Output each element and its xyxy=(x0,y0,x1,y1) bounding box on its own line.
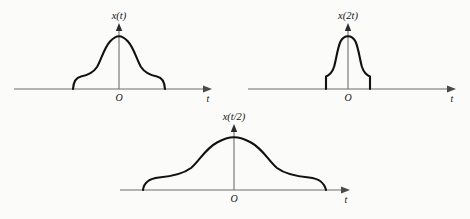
t-axis-arrowhead-xt2 xyxy=(341,187,350,194)
origin-label-x2t: O xyxy=(344,92,351,103)
y-axis-arrowhead-x2t xyxy=(345,23,351,31)
t-axis-label-xt2: t xyxy=(345,194,348,205)
y-axis-arrowhead-xt2 xyxy=(231,124,237,132)
panel-xt: x(t) O t xyxy=(14,10,212,104)
origin-label-xt: O xyxy=(115,92,122,103)
panel-xt2: x(t/2) O t xyxy=(120,111,350,205)
function-label-xt: x(t) xyxy=(111,10,127,22)
function-label-xt2: x(t/2) xyxy=(222,111,246,123)
signal-scaling-figure: x(t) O t x(2t) O t x(t/2) O t xyxy=(0,0,470,219)
t-axis-label-xt: t xyxy=(207,93,210,104)
origin-label-xt2: O xyxy=(230,193,237,204)
function-label-x2t: x(2t) xyxy=(337,10,358,22)
t-axis-arrowhead-xt xyxy=(203,86,212,93)
panel-x2t: x(2t) O t xyxy=(248,10,456,104)
y-axis-arrowhead-xt xyxy=(116,23,122,31)
t-axis-arrowhead-x2t xyxy=(447,86,456,93)
t-axis-label-x2t: t xyxy=(451,93,454,104)
